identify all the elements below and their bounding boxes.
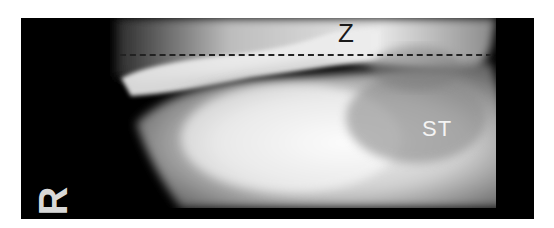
xray-image <box>21 18 534 219</box>
reference-dashed-line <box>120 54 492 56</box>
side-marker-r: R <box>33 181 73 219</box>
label-st: ST <box>422 118 452 140</box>
label-z: Z <box>338 20 354 46</box>
radiograph-frame: Z ST R <box>21 18 534 219</box>
